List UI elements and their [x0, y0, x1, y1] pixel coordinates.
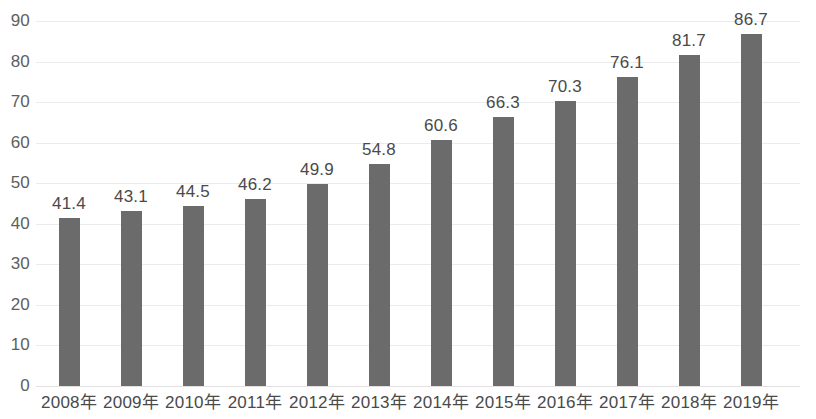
bar-group: 60.6	[410, 0, 472, 386]
x-tick-label: 2016年	[531, 393, 599, 413]
bar-group: 46.2	[224, 0, 286, 386]
bar-value-label: 76.1	[596, 54, 658, 72]
x-tick-label: 2019年	[717, 393, 785, 413]
bar-group: 54.8	[348, 0, 410, 386]
y-tick-label: 40	[0, 215, 30, 232]
y-tick-label: 30	[0, 255, 30, 272]
x-tick-label: 2017年	[593, 393, 661, 413]
bar[interactable]	[679, 55, 700, 386]
bar-group: 43.1	[100, 0, 162, 386]
bar[interactable]	[555, 101, 576, 386]
x-tick-label: 2013年	[345, 393, 413, 413]
bar[interactable]	[59, 218, 80, 386]
bar-value-label: 54.8	[348, 141, 410, 159]
gridline-0	[36, 386, 800, 387]
bar[interactable]	[617, 77, 638, 386]
bar[interactable]	[121, 211, 142, 386]
bar-value-label: 49.9	[286, 161, 348, 179]
bar-value-label: 44.5	[162, 183, 224, 201]
plot-area: 41.443.144.546.249.954.860.666.370.376.1…	[36, 0, 800, 387]
bar-value-label: 43.1	[100, 188, 162, 206]
bar-value-label: 60.6	[410, 117, 472, 135]
y-tick-label: 50	[0, 174, 30, 191]
x-tick-label: 2011年	[221, 393, 289, 413]
bar-value-label: 41.4	[38, 195, 100, 213]
bar-value-label: 70.3	[534, 78, 596, 96]
bar-value-label: 86.7	[720, 11, 782, 29]
y-tick-label: 10	[0, 336, 30, 353]
y-axis: 9080706050403020100	[0, 0, 30, 419]
bar-group: 66.3	[472, 0, 534, 386]
x-tick-label: 2012年	[283, 393, 351, 413]
bar-group: 70.3	[534, 0, 596, 386]
bar[interactable]	[245, 199, 266, 386]
x-tick-label: 2015年	[469, 393, 537, 413]
bar[interactable]	[307, 184, 328, 386]
y-tick-label: 20	[0, 296, 30, 313]
x-tick-label: 2018年	[655, 393, 723, 413]
bar-group: 49.9	[286, 0, 348, 386]
x-tick-label: 2009年	[97, 393, 165, 413]
y-tick-label: 90	[0, 12, 30, 29]
y-tick-label: 70	[0, 93, 30, 110]
bar[interactable]	[431, 140, 452, 386]
bar-group: 81.7	[658, 0, 720, 386]
y-tick-label: 80	[0, 53, 30, 70]
bar-group: 86.7	[720, 0, 782, 386]
x-tick-label: 2010年	[159, 393, 227, 413]
x-tick-label: 2008年	[35, 393, 103, 413]
x-axis: 2008年2009年2010年2011年2012年2013年2014年2015年…	[36, 389, 800, 419]
bar-chart: 9080706050403020100 41.443.144.546.249.9…	[0, 0, 816, 419]
bar-value-label: 46.2	[224, 176, 286, 194]
y-tick-label: 60	[0, 134, 30, 151]
bar-group: 76.1	[596, 0, 658, 386]
bar[interactable]	[741, 34, 762, 386]
bar[interactable]	[493, 117, 514, 386]
bar-value-label: 81.7	[658, 32, 720, 50]
bar[interactable]	[183, 206, 204, 386]
bar-value-label: 66.3	[472, 94, 534, 112]
bar-group: 41.4	[38, 0, 100, 386]
bar[interactable]	[369, 164, 390, 386]
bar-group: 44.5	[162, 0, 224, 386]
x-tick-label: 2014年	[407, 393, 475, 413]
y-tick-label: 0	[0, 377, 30, 394]
